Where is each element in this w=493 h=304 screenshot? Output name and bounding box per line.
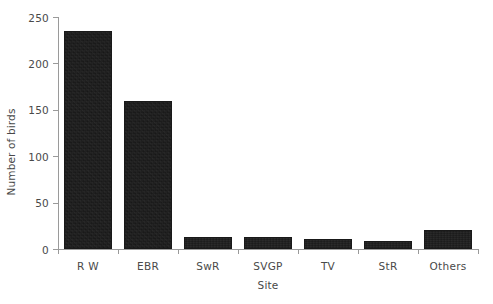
y-tick: 100	[53, 156, 58, 157]
y-tick-label: 250	[28, 12, 49, 24]
y-tick-label: 100	[28, 151, 49, 163]
y-axis-title: Number of birds	[0, 0, 22, 304]
y-tick: 50	[53, 203, 58, 204]
x-tick-label: EBR	[118, 260, 178, 272]
x-tick-label: R W	[58, 260, 118, 272]
bar	[184, 237, 232, 249]
plot-area: 050100150200250 R WEBRSwRSVGPTVStROthers	[58, 17, 478, 249]
bar	[64, 31, 112, 249]
bar	[424, 230, 472, 249]
x-tick	[238, 249, 239, 254]
x-tick	[358, 249, 359, 254]
x-tick-label: StR	[358, 260, 418, 272]
bar	[364, 241, 412, 249]
y-tick-label: 200	[28, 58, 49, 70]
x-tick-label: Others	[418, 260, 478, 272]
x-axis-line	[58, 249, 479, 250]
x-tick-label: TV	[298, 260, 358, 272]
x-tick-label: SwR	[178, 260, 238, 272]
y-tick: 250	[53, 17, 58, 18]
x-tick	[58, 249, 59, 254]
x-tick	[418, 249, 419, 254]
y-tick-label: 0	[42, 244, 49, 256]
y-tick-label: 50	[35, 197, 49, 209]
y-axis-line	[58, 17, 59, 250]
bar	[124, 101, 172, 249]
x-tick	[178, 249, 179, 254]
y-tick: 150	[53, 110, 58, 111]
bar	[304, 239, 352, 249]
y-tick: 200	[53, 63, 58, 64]
x-axis-title: Site	[58, 279, 478, 291]
x-tick-label: SVGP	[238, 260, 298, 272]
bar-chart-figure: Number of birds 050100150200250 R WEBRSw…	[0, 0, 493, 304]
x-tick	[298, 249, 299, 254]
y-tick-label: 150	[28, 104, 49, 116]
bar	[244, 237, 292, 249]
x-tick	[478, 249, 479, 254]
x-tick	[118, 249, 119, 254]
